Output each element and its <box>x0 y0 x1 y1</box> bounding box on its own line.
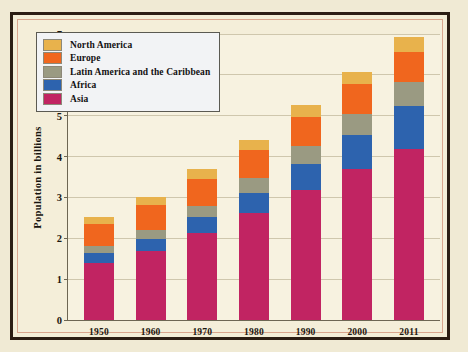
legend-color-swatch <box>43 39 62 51</box>
bar-segment[interactable] <box>394 82 424 107</box>
figure-page: Population in billions 01234567 19501960… <box>0 0 468 352</box>
bar-segment[interactable] <box>136 230 166 239</box>
y-axis-tick-mark <box>64 320 68 321</box>
bar-segment[interactable] <box>394 37 424 51</box>
y-axis-tick-mark <box>64 238 68 239</box>
bar-segment[interactable] <box>187 217 217 232</box>
bar-stack[interactable]: 1960 <box>136 197 166 320</box>
y-axis-tick-mark <box>64 156 68 157</box>
y-axis-tick-label: 1 <box>57 274 62 285</box>
legend-item-label: Europe <box>70 53 101 63</box>
bar-segment[interactable] <box>84 217 114 224</box>
y-axis-title: Population in billions <box>32 98 43 258</box>
x-axis-tick-label: 2011 <box>399 327 418 337</box>
y-axis-tick-mark <box>64 115 68 116</box>
legend-item[interactable]: Europe <box>43 52 210 66</box>
bar-segment[interactable] <box>239 140 269 150</box>
bar-segment[interactable] <box>239 213 269 320</box>
bar-segment[interactable] <box>136 251 166 320</box>
bar-stack[interactable]: 1990 <box>291 105 321 320</box>
bar-stack[interactable]: 1950 <box>84 217 114 320</box>
figure-frame-inner-rule: Population in billions 01234567 19501960… <box>17 19 443 333</box>
x-axis-tick-label: 1970 <box>192 327 212 337</box>
x-axis-tick-label: 1950 <box>89 327 109 337</box>
y-axis-tick-mark <box>64 197 68 198</box>
x-axis-tick-label: 1990 <box>296 327 316 337</box>
bar-segment[interactable] <box>187 169 217 178</box>
x-axis-tick-label: 1960 <box>141 327 161 337</box>
y-axis-tick-label: 0 <box>57 315 62 326</box>
bar-segment[interactable] <box>342 84 372 114</box>
y-axis-tick-label: 3 <box>57 192 62 203</box>
legend-color-swatch <box>43 66 62 78</box>
bar-segment[interactable] <box>291 164 321 190</box>
bar-segment[interactable] <box>187 206 217 218</box>
bar-segment[interactable] <box>239 150 269 178</box>
legend-item[interactable]: Africa <box>43 79 210 93</box>
bar-segment[interactable] <box>136 239 166 250</box>
y-axis-tick-mark <box>64 279 68 280</box>
legend-color-swatch <box>43 79 62 91</box>
bar-segment[interactable] <box>239 178 269 193</box>
gridline <box>68 115 440 116</box>
bar-stack[interactable]: 2011 <box>394 37 424 320</box>
x-axis-tick-label: 2000 <box>347 327 367 337</box>
bar-segment[interactable] <box>187 233 217 320</box>
bar-stack[interactable]: 2000 <box>342 72 372 320</box>
bar-segment[interactable] <box>342 169 372 320</box>
legend-item-label: Latin America and the Caribbean <box>70 67 210 77</box>
y-axis-tick-label: 2 <box>57 233 62 244</box>
chart-area: Population in billions 01234567 19501960… <box>18 20 458 348</box>
bar-segment[interactable] <box>291 146 321 164</box>
y-axis-tick-label: 5 <box>57 110 62 121</box>
bar-segment[interactable] <box>291 190 321 320</box>
bar-segment[interactable] <box>187 179 217 206</box>
bar-segment[interactable] <box>342 114 372 135</box>
bar-segment[interactable] <box>84 253 114 262</box>
legend-item-label: Asia <box>70 94 88 104</box>
x-axis-tick-label: 1980 <box>244 327 264 337</box>
legend-item[interactable]: Latin America and the Caribbean <box>43 65 210 79</box>
bar-segment[interactable] <box>136 197 166 205</box>
bar-segment[interactable] <box>291 105 321 116</box>
y-axis-tick-label: 4 <box>57 151 62 162</box>
bar-segment[interactable] <box>291 117 321 146</box>
legend-item[interactable]: North America <box>43 38 210 52</box>
bar-segment[interactable] <box>394 149 424 320</box>
bar-segment[interactable] <box>84 263 114 320</box>
bar-segment[interactable] <box>394 106 424 149</box>
bar-segment[interactable] <box>394 52 424 82</box>
bar-segment[interactable] <box>342 135 372 169</box>
bar-segment[interactable] <box>84 246 114 253</box>
bar-segment[interactable] <box>239 193 269 213</box>
legend: North AmericaEuropeLatin America and the… <box>36 32 220 112</box>
legend-item-label: Africa <box>70 80 96 90</box>
legend-color-swatch <box>43 93 62 105</box>
bar-segment[interactable] <box>84 224 114 246</box>
bar-stack[interactable]: 1980 <box>239 140 269 320</box>
legend-color-swatch <box>43 52 62 64</box>
figure-frame: Population in billions 01234567 19501960… <box>10 12 450 340</box>
bar-segment[interactable] <box>342 72 372 85</box>
legend-item[interactable]: Asia <box>43 92 210 106</box>
legend-item-label: North America <box>70 40 132 50</box>
page-top-text-fragment <box>12 0 132 9</box>
bar-stack[interactable]: 1970 <box>187 169 217 320</box>
bar-segment[interactable] <box>136 205 166 230</box>
